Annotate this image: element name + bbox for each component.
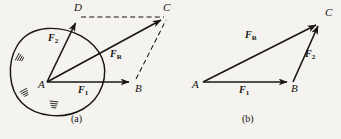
vector-label-a-F2-subscript: 2 [55, 37, 59, 45]
vector-label-b-F2-symbol: F [305, 48, 312, 59]
mechanics-figure: A B C D F1 F2 FR A B C F1 F2 FR (a) (b) [0, 0, 341, 139]
point-label-a-A: A [38, 79, 45, 90]
vector-label-b-F2: F2 [305, 49, 315, 59]
vector-label-b-F1-subscript: 1 [246, 89, 250, 97]
vector-b-FR [203, 25, 316, 82]
panel-a-graphics [10, 17, 166, 116]
vector-label-b-F1-symbol: F [239, 84, 246, 95]
figure-vector-graphics [0, 0, 341, 139]
point-label-b-C: C [325, 7, 332, 18]
vector-label-a-F1-subscript: 1 [85, 89, 89, 97]
vector-label-a-F1: F1 [78, 85, 88, 95]
vector-label-a-FR-subscript: R [117, 53, 122, 61]
vector-label-a-F2: F2 [48, 33, 58, 43]
point-label-a-D: D [74, 2, 82, 13]
caption-b: (b) [242, 114, 254, 124]
caption-a: (a) [71, 114, 82, 124]
construction-line-BC [136, 20, 166, 79]
vector-label-b-FR-subscript: R [252, 34, 257, 42]
vector-label-b-F2-subscript: 2 [312, 53, 316, 61]
panel-b-graphics [203, 25, 318, 82]
vector-label-b-F1: F1 [239, 85, 249, 95]
ground-hatch-marks [16, 53, 58, 108]
point-label-b-A: A [192, 79, 199, 90]
vector-label-a-FR-symbol: F [110, 48, 117, 59]
vector-label-b-FR-symbol: F [245, 29, 252, 40]
point-label-a-C: C [163, 2, 170, 13]
point-label-b-B: B [291, 83, 298, 94]
point-label-a-B: B [135, 83, 142, 94]
vector-label-a-F2-symbol: F [48, 32, 55, 43]
vector-label-a-FR: FR [110, 49, 122, 59]
vector-label-b-FR: FR [245, 30, 257, 40]
vector-label-a-F1-symbol: F [78, 84, 85, 95]
